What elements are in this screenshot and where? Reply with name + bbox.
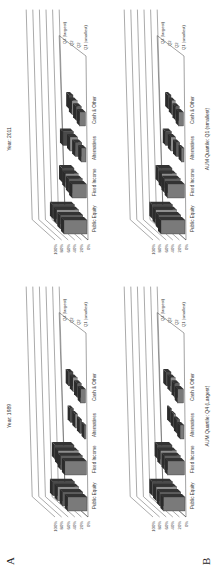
svg-text:20%: 20% [177, 244, 182, 253]
svg-text:0%: 0% [86, 244, 91, 250]
svg-text:100%: 100% [53, 521, 58, 532]
svg-text:Fixed Income: Fixed Income [92, 168, 97, 196]
svg-text:60%: 60% [164, 244, 169, 253]
chart-1989: Year: 1989 0%20%40%60%80%100%Public Equi… [4, 281, 104, 551]
svg-text:Alternatives: Alternatives [92, 135, 97, 160]
svg-text:Q2: Q2 [76, 42, 81, 48]
svg-text:Q2: Q2 [167, 40, 172, 46]
svg-text:Q2: Q2 [174, 42, 179, 48]
svg-text:Q1 (smallest): Q1 (smallest) [181, 24, 186, 50]
svg-text:Public Equity: Public Equity [92, 482, 97, 509]
plot-area: 0%20%40%60%80%100%Public EquityFixed Inc… [112, 4, 212, 274]
svg-text:100%: 100% [151, 521, 156, 532]
svg-text:Q1 (smallest): Q1 (smallest) [181, 301, 186, 327]
chart-title: Year: 2011 [6, 4, 12, 274]
svg-text:Fixed Income: Fixed Income [190, 445, 195, 473]
svg-text:20%: 20% [177, 521, 182, 530]
svg-text:Q1 (smallest): Q1 (smallest) [83, 24, 88, 50]
svg-text:100%: 100% [53, 244, 58, 255]
svg-text:100%: 100% [151, 244, 156, 255]
svg-text:Alternatives: Alternatives [190, 412, 195, 437]
svg-text:40%: 40% [170, 244, 175, 253]
svg-text:Public Equity: Public Equity [190, 482, 195, 509]
panel-label-a: A [4, 557, 16, 565]
svg-text:Public Equity: Public Equity [92, 205, 97, 232]
svg-text:Cash & Other: Cash & Other [92, 373, 97, 401]
svg-text:40%: 40% [72, 244, 77, 253]
plot-area: 0%20%40%60%80%100%Public EquityFixed Inc… [112, 281, 212, 551]
svg-text:Q2: Q2 [69, 40, 74, 46]
svg-text:60%: 60% [164, 521, 169, 530]
svg-text:Alternatives: Alternatives [190, 135, 195, 160]
svg-text:0%: 0% [184, 521, 189, 527]
svg-text:Public Equity: Public Equity [190, 205, 195, 232]
svg-text:Q2: Q2 [174, 319, 179, 325]
chart-title: AUM Quartile: Q4 (Largest) [204, 281, 210, 551]
chart-2011: Year: 2011 0%20%40%60%80%100%Public Equi… [4, 4, 104, 274]
svg-text:0%: 0% [86, 521, 91, 527]
svg-text:0%: 0% [184, 244, 189, 250]
svg-text:Q1 (smallest): Q1 (smallest) [83, 301, 88, 327]
svg-text:60%: 60% [66, 521, 71, 530]
svg-text:Q4 (largest): Q4 (largest) [62, 21, 67, 44]
svg-text:20%: 20% [79, 521, 84, 530]
svg-text:60%: 60% [66, 244, 71, 253]
svg-text:40%: 40% [170, 521, 175, 530]
svg-text:Q4 (largest): Q4 (largest) [160, 298, 165, 321]
svg-text:80%: 80% [59, 244, 64, 253]
svg-text:80%: 80% [59, 521, 64, 530]
figure: A B Year: 1989 0%20%40%60%80%100%Public … [0, 0, 220, 569]
svg-text:Q4 (largest): Q4 (largest) [62, 298, 67, 321]
chart-title: AUM Quartile: Q1 (smallest) [204, 4, 210, 274]
panel-label-b: B [200, 558, 212, 565]
svg-text:80%: 80% [157, 244, 162, 253]
svg-text:Q2: Q2 [76, 319, 81, 325]
svg-text:40%: 40% [72, 521, 77, 530]
svg-text:Cash & Other: Cash & Other [92, 96, 97, 124]
svg-text:Q4 (largest): Q4 (largest) [160, 21, 165, 44]
svg-text:Fixed Income: Fixed Income [190, 168, 195, 196]
svg-text:Cash & Other: Cash & Other [190, 96, 195, 124]
svg-text:Alternatives: Alternatives [92, 412, 97, 437]
svg-text:Q2: Q2 [167, 317, 172, 323]
chart-q4-largest: AUM Quartile: Q4 (Largest) 0%20%40%60%80… [112, 281, 212, 551]
svg-text:20%: 20% [79, 244, 84, 253]
plot-area: 0%20%40%60%80%100%Public EquityFixed Inc… [4, 281, 104, 551]
svg-text:80%: 80% [157, 521, 162, 530]
svg-text:Cash & Other: Cash & Other [190, 373, 195, 401]
chart-title: Year: 1989 [6, 281, 12, 551]
svg-text:Fixed Income: Fixed Income [92, 445, 97, 473]
svg-text:Q2: Q2 [69, 317, 74, 323]
chart-q1-smallest: AUM Quartile: Q1 (smallest) 0%20%40%60%8… [112, 4, 212, 274]
plot-area: 0%20%40%60%80%100%Public EquityFixed Inc… [4, 4, 104, 274]
